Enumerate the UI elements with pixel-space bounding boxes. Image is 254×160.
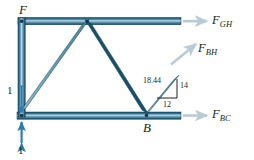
joint-pin-f [20, 20, 23, 23]
force-label-fgh: FGH [212, 14, 232, 27]
joint-pin-b [145, 114, 148, 117]
unit-label-lower: 1 [18, 145, 24, 156]
force-label-fbh-base: F [198, 41, 206, 55]
member-diagonal-left-up [20, 20, 89, 113]
slope-hypotenuse-label: 18.44 [143, 77, 161, 85]
force-label-fbc-sub: BC [220, 113, 231, 123]
force-arrow-fbh [171, 44, 196, 65]
force-label-fgh-sub: GH [220, 19, 233, 29]
member-top-chord [18, 18, 181, 25]
figure-container: F B FGH FBH FBC 18.44 14 12 1 1 [0, 0, 254, 160]
joint-label-f: F [19, 3, 27, 16]
force-label-fbc: FBC [212, 108, 231, 121]
force-label-fbh-sub: BH [206, 47, 218, 57]
force-label-fgh-base: F [212, 13, 220, 27]
slope-horizontal-label: 12 [163, 101, 171, 109]
slope-vertical-label: 14 [180, 82, 188, 90]
joint-label-b: B [143, 121, 151, 134]
member-bottom-chord [17, 112, 181, 119]
member-diagonal-right-down [85, 20, 149, 114]
force-label-fbh: FBH [198, 42, 217, 55]
unit-label-upper: 1 [7, 85, 13, 96]
force-label-fbc-base: F [212, 107, 220, 121]
joint-pin-support [20, 114, 23, 117]
joint-pin-apex [86, 20, 89, 23]
